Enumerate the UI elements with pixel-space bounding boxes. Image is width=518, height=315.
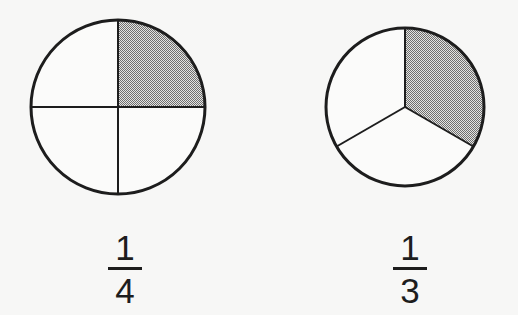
pie-chart-one-third bbox=[326, 28, 484, 186]
fraction-stack-one-third: 1 3 bbox=[393, 230, 427, 308]
fraction-diagram-figure: 1 4 1 3 bbox=[0, 0, 518, 315]
fraction-denominator: 3 bbox=[393, 270, 427, 308]
fraction-numerator: 1 bbox=[393, 230, 427, 267]
fraction-stack-one-fourth: 1 4 bbox=[108, 230, 142, 308]
fraction-label-one-fourth: 1 4 bbox=[83, 230, 167, 308]
pie-chart-one-fourth bbox=[31, 20, 205, 194]
fraction-label-one-third: 1 3 bbox=[368, 230, 452, 308]
fraction-numerator: 1 bbox=[108, 230, 142, 267]
fraction-denominator: 4 bbox=[108, 270, 142, 308]
